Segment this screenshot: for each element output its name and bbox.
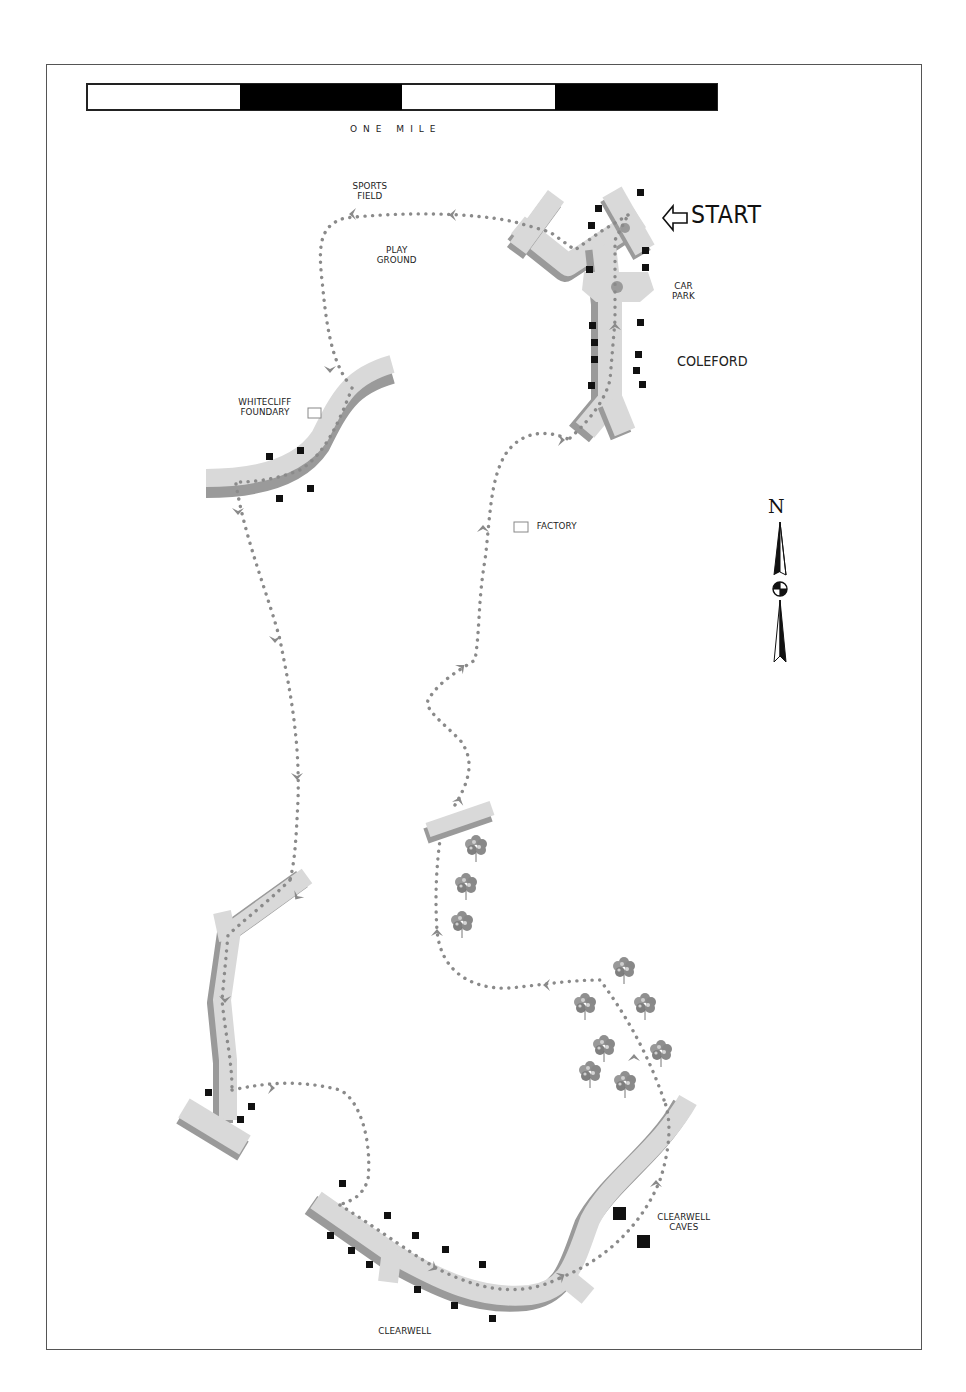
coleford-label: COLEFORD xyxy=(677,354,748,368)
sports-field-line2: FIELD xyxy=(353,191,388,201)
whitecliff-line2: FOUNDARY xyxy=(238,407,291,417)
scale-bar-caption: ONE MILE xyxy=(350,125,441,134)
start-label: START xyxy=(691,203,761,228)
car-park-label: CAR PARK xyxy=(672,281,695,301)
play-ground-line2: GROUND xyxy=(377,255,417,265)
factory-marker xyxy=(514,522,528,532)
factory-label: FACTORY xyxy=(537,521,577,531)
road-clearwell xyxy=(311,1100,688,1301)
clearwell-label: CLEARWELL xyxy=(378,1326,431,1336)
clearwell-caves-label: CLEARWELL CAVES xyxy=(657,1212,710,1232)
north-arrow-icon xyxy=(773,522,787,662)
clearwell-caves-line2: CAVES xyxy=(657,1222,710,1232)
hollow-arrow-left-icon xyxy=(663,206,687,230)
road-west xyxy=(182,876,307,1151)
north-label: N xyxy=(768,497,785,517)
play-ground-label: PLAY GROUND xyxy=(377,245,417,265)
walk-map xyxy=(0,0,966,1392)
whitecliff-foundary-marker xyxy=(308,408,321,418)
sports-field-label: SPORTS FIELD xyxy=(353,181,388,201)
road-middle xyxy=(426,808,492,836)
scale-bar xyxy=(87,84,717,110)
woodland xyxy=(451,835,672,1098)
car-park-line2: PARK xyxy=(672,291,695,301)
roads xyxy=(182,192,688,1301)
buildings xyxy=(205,189,650,1322)
whitecliff-foundary-label: WHITECLIFF FOUNDARY xyxy=(238,397,291,417)
